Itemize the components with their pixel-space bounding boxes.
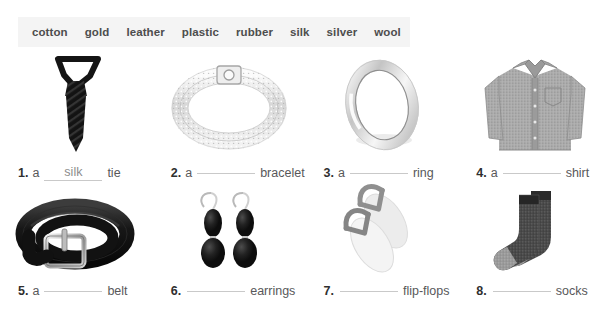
item-number: 6. — [171, 284, 181, 298]
answer-blank-1[interactable]: silk — [44, 165, 102, 181]
word-bank-item-silk[interactable]: silk — [290, 26, 310, 38]
exercise-row-2: 5. a belt — [0, 186, 611, 304]
answer-blank-3[interactable] — [350, 172, 408, 174]
answer-blank-4[interactable] — [503, 172, 561, 174]
word-bank-item-rubber[interactable]: rubber — [236, 26, 273, 38]
exercise-item-5: 5. a belt — [0, 186, 153, 304]
exercise-row-1: 1. a silk tie — [0, 52, 611, 186]
item-noun: earrings — [250, 284, 295, 298]
answer-blank-6[interactable] — [187, 290, 245, 292]
exercise-item-1: 1. a silk tie — [0, 52, 153, 186]
exercise-caption-8: 8. socks — [458, 278, 611, 304]
exercise-caption-4: 4. a shirt — [458, 160, 611, 186]
exercise-item-8: 8. socks — [458, 186, 611, 304]
answer-blank-7[interactable] — [340, 290, 398, 292]
word-bank-item-leather[interactable]: leather — [126, 26, 164, 38]
earrings-image — [153, 186, 306, 278]
item-noun: ring — [413, 166, 434, 180]
necktie-image — [0, 52, 153, 160]
answer-blank-5[interactable] — [44, 290, 102, 292]
exercise-caption-1: 1. a silk tie — [0, 160, 153, 186]
item-noun: bracelet — [260, 166, 304, 180]
item-article: a — [32, 284, 39, 298]
word-bank-item-silver[interactable]: silver — [327, 26, 358, 38]
item-number: 5. — [18, 284, 28, 298]
exercise-caption-3: 3. a ring — [306, 160, 459, 186]
exercise-item-3: 3. a ring — [306, 52, 459, 186]
exercise-item-7: 7. flip-flops — [306, 186, 459, 304]
exercise-item-4: 4. a shirt — [458, 52, 611, 186]
item-article: a — [338, 166, 345, 180]
exercise-item-2: 2. a bracelet — [153, 52, 306, 186]
item-number: 3. — [324, 166, 334, 180]
exercise-caption-6: 6. earrings — [153, 278, 306, 304]
word-bank: cotton gold leather plastic rubber silk … — [18, 17, 410, 47]
word-bank-item-wool[interactable]: wool — [374, 26, 401, 38]
item-number: 8. — [476, 284, 486, 298]
item-number: 4. — [476, 166, 486, 180]
item-article: a — [491, 166, 498, 180]
exercise-grid: 1. a silk tie — [0, 52, 611, 304]
item-number: 7. — [324, 284, 334, 298]
answer-blank-8[interactable] — [493, 290, 551, 292]
item-noun: tie — [107, 166, 120, 180]
item-noun: shirt — [566, 166, 590, 180]
word-bank-item-plastic[interactable]: plastic — [182, 26, 219, 38]
exercise-item-6: 6. earrings — [153, 186, 306, 304]
item-number: 1. — [18, 166, 28, 180]
exercise-caption-5: 5. a belt — [0, 278, 153, 304]
word-bank-item-gold[interactable]: gold — [85, 26, 110, 38]
answer-blank-2[interactable] — [197, 172, 255, 174]
item-number: 2. — [171, 166, 181, 180]
item-noun: flip-flops — [403, 284, 450, 298]
item-article: a — [32, 166, 39, 180]
socks-image — [458, 186, 611, 278]
exercise-caption-2: 2. a bracelet — [153, 160, 306, 186]
item-article: a — [185, 166, 192, 180]
bracelet-image — [153, 52, 306, 160]
item-noun: socks — [556, 284, 588, 298]
flip-flops-image — [306, 186, 459, 278]
ring-image — [306, 52, 459, 160]
belt-image — [0, 186, 153, 278]
item-noun: belt — [107, 284, 127, 298]
word-bank-item-cotton[interactable]: cotton — [32, 26, 68, 38]
exercise-caption-7: 7. flip-flops — [306, 278, 459, 304]
shirt-image — [458, 52, 611, 160]
